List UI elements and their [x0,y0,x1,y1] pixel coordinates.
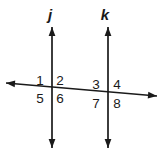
parallel-lines-transversal-diagram: j k 12563478 [0,0,163,153]
transversal-line-group [6,80,157,98]
geometry-figure: j k 12563478 [0,0,163,153]
angle-3-label: 3 [92,77,100,92]
angle-1-label: 1 [36,73,44,88]
line-k-label: k [101,6,110,23]
line-j-top-arrow-icon [49,27,56,36]
angle-7-label: 7 [92,96,100,111]
angle-2-label: 2 [56,73,64,88]
line-k-top-arrow-icon [105,27,112,36]
transversal-line [6,83,157,96]
angle-4-label: 4 [113,77,121,92]
angle-5-label: 5 [36,91,44,106]
line-j-label: j [46,6,53,23]
line-k-group: k [101,6,112,148]
angle-8-label: 8 [113,96,121,111]
line-j-bottom-arrow-icon [49,139,56,148]
line-j-group: j [46,6,55,148]
angle-6-label: 6 [56,91,64,106]
line-k-bottom-arrow-icon [105,139,112,148]
